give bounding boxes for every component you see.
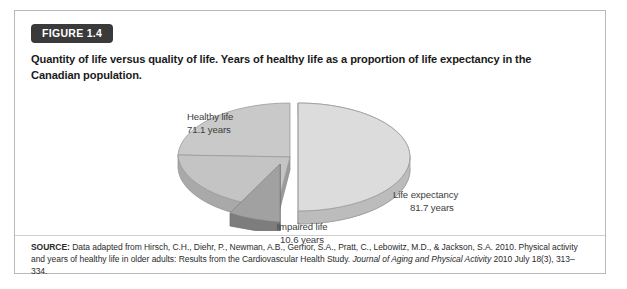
pie-label-life-expectancy-name: Life expectancy bbox=[393, 189, 458, 200]
source-divider bbox=[15, 235, 605, 236]
figure-box: FIGURE 1.4 Quantity of life versus quali… bbox=[14, 10, 606, 274]
figure-source-note: SOURCE: Data adapted from Hirsch, C.H., … bbox=[31, 241, 587, 278]
pie-label-healthy-life: Healthy life 71.1 years bbox=[187, 111, 233, 136]
source-label: SOURCE: bbox=[31, 242, 70, 252]
figure-caption: Quantity of life versus quality of life.… bbox=[31, 52, 583, 83]
pie-label-impaired-life-name: Impaired life bbox=[277, 221, 328, 232]
figure-number-badge: FIGURE 1.4 bbox=[31, 24, 113, 43]
source-journal-title: Journal of Aging and Physical Activity bbox=[352, 254, 491, 264]
pie-chart-graphic bbox=[15, 89, 605, 231]
pie-label-healthy-life-name: Healthy life bbox=[187, 111, 233, 122]
pie-label-life-expectancy: Life expectancy 81.7 years bbox=[393, 189, 458, 214]
pie-chart: Healthy life 71.1 years Life expectancy … bbox=[15, 89, 605, 231]
pie-label-healthy-life-value: 71.1 years bbox=[187, 124, 233, 137]
pie-label-life-expectancy-value: 81.7 years bbox=[393, 202, 458, 215]
